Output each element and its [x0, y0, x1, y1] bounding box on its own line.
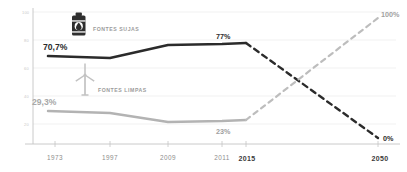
- legend-label-clean: FONTES LIMPAS: [98, 87, 147, 93]
- x-tick-2050: 2050: [371, 155, 388, 162]
- y-tick-20: 20: [24, 122, 29, 127]
- series-line-clean-historic: [48, 111, 246, 122]
- y-tick-80: 80: [24, 38, 29, 43]
- x-tick-2015: 2015: [238, 155, 255, 162]
- x-tick-1973: 1973: [47, 154, 63, 161]
- x-axis: 1973 1997 2009 2011 2015 2050: [47, 154, 389, 162]
- x-tick-2011: 2011: [214, 154, 229, 161]
- y-tick-100: 100: [22, 10, 30, 15]
- energy-matrix-chart: 100 80 60 40 20: [0, 0, 407, 172]
- label-clean-2015: 23%: [216, 127, 231, 136]
- label-dirty-start: 70,7%: [43, 42, 68, 52]
- label-dirty-2015: 77%: [216, 32, 231, 41]
- legend-label-dirty: FONTES SUJAS: [93, 26, 139, 32]
- label-clean-2050: 100%: [381, 10, 400, 19]
- chart-canvas: 100 80 60 40 20: [0, 0, 407, 172]
- y-tick-40: 40: [24, 94, 29, 99]
- label-clean-start: 29,3%: [32, 97, 57, 107]
- series-line-dirty-historic: [48, 43, 246, 58]
- label-dirty-2050: 0%: [383, 134, 394, 143]
- x-tick-2009: 2009: [160, 154, 176, 161]
- oil-barrel-icon: [72, 13, 86, 36]
- y-tick-60: 60: [24, 66, 29, 71]
- y-axis: 100 80 60 40 20: [22, 10, 30, 127]
- gridlines: [33, 12, 396, 124]
- x-tick-1997: 1997: [102, 154, 118, 161]
- series-line-clean-projection: [246, 18, 378, 120]
